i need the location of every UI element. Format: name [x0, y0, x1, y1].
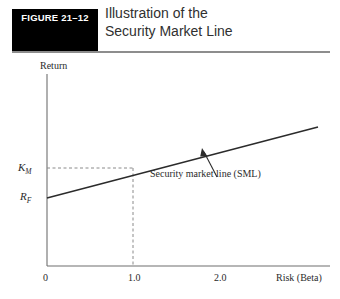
chart-svg	[0, 0, 340, 299]
security-market-line	[47, 127, 318, 198]
km-subscript: M	[25, 167, 31, 176]
y-axis-label: Return	[40, 60, 67, 71]
chart-plot-area: Return Risk (Beta) 0 1.0 2.0 KM RF Secur…	[0, 0, 340, 299]
rf-base: R	[20, 190, 27, 202]
figure-container: FIGURE 21–12 Illustration of the Securit…	[0, 0, 340, 299]
x-tick-0: 0	[43, 272, 48, 283]
rf-value-label: RF	[20, 190, 31, 205]
x-tick-2: 2.0	[214, 272, 227, 283]
x-tick-1: 1.0	[128, 272, 141, 283]
x-axis-label: Risk (Beta)	[276, 272, 322, 283]
km-value-label: KM	[18, 161, 32, 176]
sml-annotation-text: Security market line (SML)	[150, 168, 261, 179]
rf-subscript: F	[27, 196, 32, 205]
